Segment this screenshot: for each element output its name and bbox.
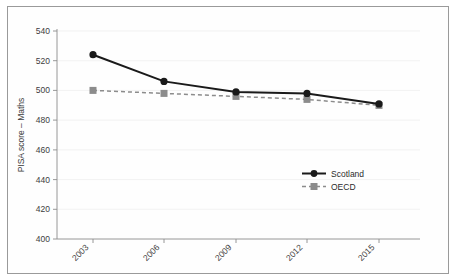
gridlines xyxy=(57,31,420,209)
data-point-scotland-2006 xyxy=(160,78,167,85)
chart-screenshot: 540 520 500 480 460 440 420 400 PISA sco… xyxy=(0,0,456,280)
data-point-oecd-2003 xyxy=(90,87,97,94)
chart-canvas: 540 520 500 480 460 440 420 400 PISA sco… xyxy=(0,0,456,280)
x-tick-marks xyxy=(93,239,379,243)
y-tick-label-540: 540 xyxy=(36,26,50,36)
y-tick-label-500: 500 xyxy=(36,85,50,95)
x-tick-label-2003: 2003 xyxy=(70,242,91,263)
y-tick-label-460: 460 xyxy=(36,145,50,155)
y-tick-label-400: 400 xyxy=(36,234,50,244)
data-point-scotland-2015 xyxy=(375,100,382,107)
x-tick-label-2015: 2015 xyxy=(356,242,377,263)
legend-label-scotland: Scotland xyxy=(331,169,364,179)
y-tick-marks xyxy=(53,31,57,239)
y-tick-label-480: 480 xyxy=(36,115,50,125)
x-tick-labels: 2003 2006 2009 2012 2015 xyxy=(70,242,377,263)
legend-marker-circle-icon xyxy=(311,170,318,177)
y-tick-labels: 540 520 500 480 460 440 420 400 xyxy=(36,26,50,244)
x-tick-label-2009: 2009 xyxy=(213,242,234,263)
data-point-scotland-2009 xyxy=(232,88,239,95)
data-point-scotland-2012 xyxy=(303,90,310,97)
legend: Scotland OECD xyxy=(302,169,364,192)
y-tick-label-520: 520 xyxy=(36,56,50,66)
x-tick-label-2006: 2006 xyxy=(141,242,162,263)
legend-marker-square-icon xyxy=(311,183,318,190)
legend-label-oecd: OECD xyxy=(331,182,356,192)
data-point-scotland-2003 xyxy=(89,51,96,58)
y-axis-title: PISA score – Maths xyxy=(16,98,26,173)
data-point-oecd-2006 xyxy=(161,90,168,97)
legend-item-scotland[interactable]: Scotland xyxy=(302,169,364,179)
x-tick-label-2012: 2012 xyxy=(284,242,305,263)
y-tick-label-440: 440 xyxy=(36,175,50,185)
legend-item-oecd[interactable]: OECD xyxy=(302,182,356,192)
line-chart: 540 520 500 480 460 440 420 400 PISA sco… xyxy=(0,0,456,280)
y-tick-label-420: 420 xyxy=(36,204,50,214)
